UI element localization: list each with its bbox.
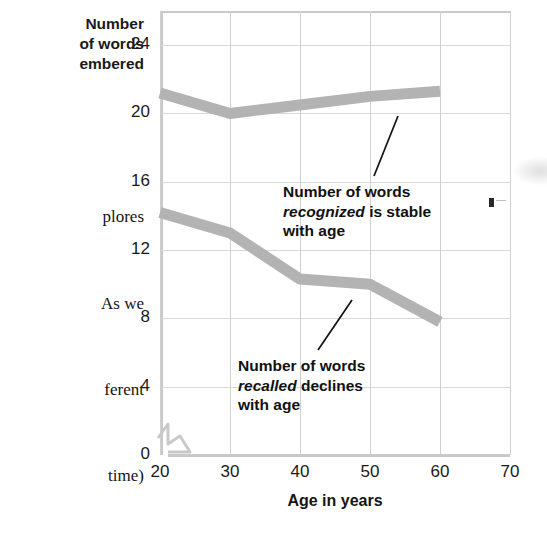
x-tick-label: 30 bbox=[210, 462, 250, 482]
x-tick-label: 50 bbox=[350, 462, 390, 482]
y-tick-label: 4 bbox=[104, 376, 150, 396]
gridline-h bbox=[160, 318, 510, 319]
gridline-v bbox=[160, 11, 161, 455]
annotation-recognized-line1: Number of words bbox=[283, 182, 498, 202]
gridline-v bbox=[230, 11, 231, 455]
annotation-recalled: Number of words recalled declines with a… bbox=[238, 356, 438, 415]
annotation-recalled-line1: Number of words bbox=[238, 356, 438, 376]
annotation-recalled-line2-rest: declines bbox=[297, 377, 363, 394]
y-tick-label: 24 bbox=[104, 34, 150, 54]
x-tick-label: 20 bbox=[140, 462, 180, 482]
annotation-recalled-line2: recalled declines bbox=[238, 376, 438, 396]
gridline-h bbox=[160, 45, 510, 46]
x-tick-label: 40 bbox=[280, 462, 320, 482]
line-chart: 04812162024 203040506070 Age in years Nu… bbox=[0, 0, 547, 549]
annotation-recognized-line3: with age bbox=[283, 221, 498, 241]
y-tick-label: 0 bbox=[104, 444, 150, 464]
page-edge-shadow bbox=[512, 156, 547, 186]
y-tick-label: 8 bbox=[104, 307, 150, 327]
x-axis-title: Age in years bbox=[205, 492, 465, 510]
annotation-recognized: Number of words recognized is stable wit… bbox=[283, 182, 498, 241]
gridline-h bbox=[160, 113, 510, 114]
x-tick-label: 70 bbox=[490, 462, 530, 482]
gridline-v bbox=[510, 11, 511, 455]
y-tick-label: 20 bbox=[104, 102, 150, 122]
y-tick-label: 16 bbox=[104, 171, 150, 191]
x-axis-line bbox=[168, 454, 510, 457]
gridline-h bbox=[160, 250, 510, 251]
annotation-recognized-keyword: recognized bbox=[283, 203, 365, 220]
annotation-recalled-keyword: recalled bbox=[238, 377, 297, 394]
x-tick-label: 60 bbox=[420, 462, 460, 482]
annotation-recalled-line3: with age bbox=[238, 395, 438, 415]
annotation-recognized-line2-rest: is stable bbox=[365, 203, 431, 220]
y-tick-label: 12 bbox=[104, 239, 150, 259]
annotation-recognized-line2: recognized is stable bbox=[283, 202, 498, 222]
figure-root: Number of words embered plores As we fer… bbox=[0, 0, 547, 549]
